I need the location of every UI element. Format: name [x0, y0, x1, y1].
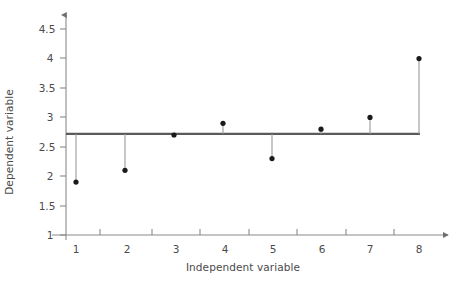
y-axis: [60, 15, 66, 240]
data-point: [220, 121, 225, 126]
x-axis-title: Independent variable: [186, 261, 300, 273]
x-tick-label: 6: [319, 243, 326, 255]
chart-plot-area: [0, 0, 460, 284]
y-axis-ticks: [60, 29, 66, 235]
y-axis-title: Dependent variable: [3, 89, 15, 195]
y-tick-label: 4: [47, 52, 54, 64]
x-tick-label: 7: [367, 243, 374, 255]
y-tick-label: 2.5: [39, 141, 56, 153]
x-tick-label: 4: [222, 243, 229, 255]
data-point: [171, 132, 176, 137]
data-point: [367, 115, 372, 120]
x-axis-ticks: [100, 229, 394, 235]
y-tick-label: 4.5: [39, 23, 56, 35]
x-tick-label: 1: [73, 243, 80, 255]
y-tick-label: 1: [47, 229, 54, 241]
chart-container: 1 1.5 2 2.5 3 3.5 4 4.5 1 2 3 4 5 6 7 8 …: [0, 0, 460, 284]
x-tick-label: 3: [173, 243, 180, 255]
data-point: [318, 127, 323, 132]
x-tick-label: 5: [270, 243, 277, 255]
y-tick-label: 1.5: [39, 200, 56, 212]
x-axis: [52, 229, 448, 235]
x-tick-label: 8: [416, 243, 423, 255]
stem-lines-group: [76, 59, 419, 183]
y-tick-label: 2: [47, 170, 54, 182]
data-points-group: [73, 56, 421, 185]
x-tick-label: 2: [124, 243, 131, 255]
data-point: [73, 180, 78, 185]
y-tick-label: 3: [47, 111, 54, 123]
data-point: [416, 56, 421, 61]
data-point: [269, 156, 274, 161]
data-point: [122, 168, 127, 173]
y-tick-label: 3.5: [39, 82, 56, 94]
